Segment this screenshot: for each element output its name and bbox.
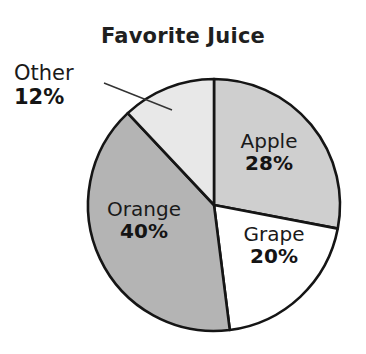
slice-name-apple: Apple xyxy=(223,131,315,152)
slice-value-grape: 20% xyxy=(228,246,320,267)
slice-name-grape: Grape xyxy=(228,224,320,245)
slice-name-orange: Orange xyxy=(88,199,200,220)
slice-label-other: Other 12% xyxy=(14,62,104,109)
pie-chart: Favorite Juice Apple 28% Grape 20% Orang… xyxy=(0,0,366,354)
slice-value-apple: 28% xyxy=(223,153,315,174)
pie-svg xyxy=(0,0,366,354)
slice-value-orange: 40% xyxy=(88,221,200,242)
slice-name-other: Other xyxy=(14,62,104,84)
slice-label-grape: Grape 20% xyxy=(228,224,320,267)
slice-label-apple: Apple 28% xyxy=(223,131,315,174)
slice-label-orange: Orange 40% xyxy=(88,199,200,242)
slice-value-other: 12% xyxy=(14,86,104,108)
